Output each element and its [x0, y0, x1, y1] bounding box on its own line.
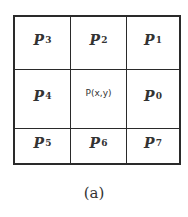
- cell-label: P: [144, 32, 155, 48]
- cell-p7: P7: [127, 129, 179, 163]
- cell-p6: P6: [71, 129, 127, 163]
- cell-subscript: 5: [45, 138, 51, 148]
- cell-subscript: 3: [45, 35, 51, 45]
- cell-p3: P3: [15, 17, 71, 70]
- cell-p5: P5: [15, 129, 71, 163]
- cell-p4: P4: [15, 70, 71, 129]
- cell-p1: P1: [127, 17, 179, 70]
- cell-subscript: 0: [156, 91, 162, 101]
- figure-caption: (a): [0, 184, 188, 202]
- cell-subscript: 1: [156, 35, 162, 45]
- cell-label: P: [144, 135, 155, 151]
- cell-p0: P0: [127, 70, 179, 129]
- cell-subscript: 4: [45, 91, 51, 101]
- cell-label: P: [34, 88, 45, 104]
- cell-p2: P2: [71, 17, 127, 70]
- cell-label: P: [144, 88, 155, 104]
- cell-subscript: 7: [156, 138, 162, 148]
- cell-center-pxy: P(x,y): [71, 70, 127, 129]
- cell-subscript: 2: [101, 35, 107, 45]
- cell-label: P: [90, 135, 101, 151]
- pixel-neighborhood-grid: P3 P2 P1 P4 P(x,y) P0 P5 P6 P7: [13, 15, 181, 165]
- cell-label: P: [90, 32, 101, 48]
- cell-label: P: [34, 135, 45, 151]
- cell-subscript: 6: [101, 138, 107, 148]
- cell-label: P(x,y): [86, 88, 112, 98]
- cell-label: P: [34, 32, 45, 48]
